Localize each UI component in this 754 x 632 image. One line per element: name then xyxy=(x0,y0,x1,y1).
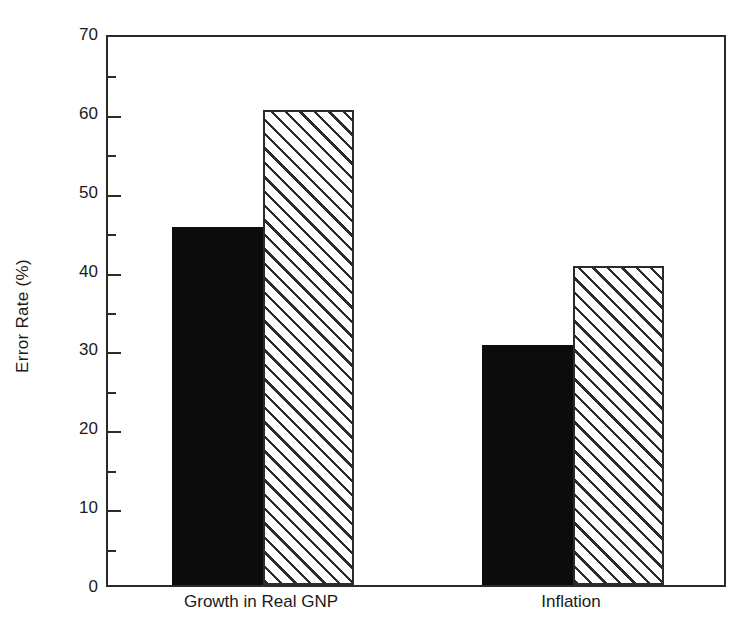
x-category-label-1: Inflation xyxy=(541,592,601,612)
y-tick-label-70: 70 xyxy=(0,25,98,45)
y-tick-label-60: 60 xyxy=(0,104,98,124)
y-tick-minor-25 xyxy=(108,392,116,394)
y-tick-label-30: 30 xyxy=(0,340,98,360)
x-category-label-0: Growth in Real GNP xyxy=(184,592,338,612)
y-tick-minor-35 xyxy=(108,313,116,315)
y-tick-label-10: 10 xyxy=(0,498,98,518)
chart-figure: Error Rate (%) 010203040506070 Growth in… xyxy=(0,0,754,632)
y-tick-major-40 xyxy=(108,274,121,276)
y-tick-major-50 xyxy=(108,195,121,197)
y-tick-major-60 xyxy=(108,116,121,118)
y-tick-major-20 xyxy=(108,431,121,433)
y-tick-minor-45 xyxy=(108,234,116,236)
y-tick-label-20: 20 xyxy=(0,419,98,439)
y-tick-minor-65 xyxy=(108,76,116,78)
plot-area xyxy=(106,35,726,587)
y-tick-minor-55 xyxy=(108,155,116,157)
y-tick-label-40: 40 xyxy=(0,262,98,282)
y-tick-minor-5 xyxy=(108,550,116,552)
x-axis-category-labels: Growth in Real GNPInflation xyxy=(106,592,726,622)
y-tick-minor-15 xyxy=(108,471,116,473)
y-tick-major-30 xyxy=(108,352,121,354)
y-tick-label-50: 50 xyxy=(0,183,98,203)
bar-hatched-group-1 xyxy=(573,266,664,585)
bar-hatched-group-0 xyxy=(263,110,354,585)
bar-solid-group-1 xyxy=(482,345,573,585)
y-tick-label-0: 0 xyxy=(0,577,98,597)
y-tick-major-10 xyxy=(108,510,121,512)
bar-solid-group-0 xyxy=(172,227,263,585)
y-axis-tick-labels: 010203040506070 xyxy=(0,0,98,632)
